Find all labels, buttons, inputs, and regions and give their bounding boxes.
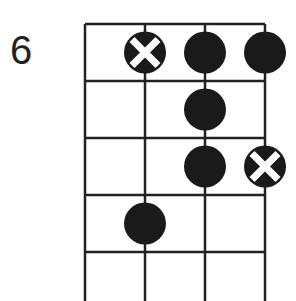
finger-dot	[184, 32, 226, 74]
finger-dot	[124, 203, 166, 245]
finger-dot	[244, 32, 286, 74]
fretboard-grid	[0, 0, 296, 301]
finger-dot	[184, 146, 226, 188]
grid-lines	[85, 24, 265, 301]
finger-dot	[184, 89, 226, 131]
